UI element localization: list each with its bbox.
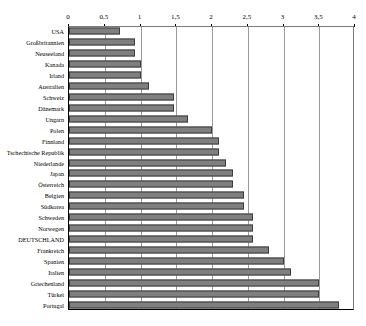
bar — [69, 61, 141, 68]
category-label: DEUTSCHLAND — [18, 235, 64, 242]
bar-row: DEUTSCHLAND — [0, 234, 366, 245]
bar — [69, 235, 253, 242]
bar-row: Niederlande — [0, 157, 366, 168]
bar — [69, 225, 253, 232]
bar — [69, 279, 319, 286]
category-label: Tschechische Republik — [7, 148, 64, 155]
bar-row: Dänemark — [0, 102, 366, 113]
bar — [69, 301, 339, 308]
bar — [69, 126, 212, 133]
bar — [69, 257, 284, 264]
bar-row: Japan — [0, 168, 366, 179]
x-axis-tick-label: 1 — [138, 13, 142, 21]
bar-row: USA — [0, 26, 366, 37]
bar-row: Südkorea — [0, 201, 366, 212]
category-label: Spanien — [44, 257, 64, 264]
category-label: Kanada — [45, 61, 64, 68]
bar — [69, 268, 291, 275]
category-label: Japan — [50, 170, 64, 177]
bar — [69, 203, 244, 210]
category-label: Österreich — [38, 181, 64, 188]
category-label: Portugal — [43, 301, 64, 308]
bar — [69, 246, 269, 253]
bar — [69, 192, 244, 199]
bar-row: Norwegen — [0, 223, 366, 234]
bar — [69, 50, 135, 57]
category-label: Finnland — [42, 137, 64, 144]
category-label: Schweiz — [43, 93, 64, 100]
bar-row: Australien — [0, 81, 366, 92]
bar-row: Neuseeland — [0, 48, 366, 59]
category-label: Türkei — [48, 290, 65, 297]
bar-row: Finnland — [0, 135, 366, 146]
x-axis-tick-label: 2 — [209, 13, 213, 21]
category-label: Polen — [50, 126, 64, 133]
bar-row: Schweiz — [0, 92, 366, 103]
x-axis-tick-label: 3,5 — [314, 13, 323, 21]
category-label: Niederlande — [34, 159, 64, 166]
category-label: Belgien — [45, 192, 64, 199]
category-label: Südkorea — [41, 203, 64, 210]
bar-row: Großbritannien — [0, 37, 366, 48]
bar — [69, 214, 253, 221]
bar-chart: 00,511,522,533,54 USAGroßbritannienNeuse… — [0, 0, 366, 326]
bar-row: Türkei — [0, 288, 366, 299]
bar — [69, 159, 226, 166]
bar-row: Portugal — [0, 299, 366, 310]
category-label: Australien — [38, 83, 64, 90]
category-label: Griechenland — [31, 279, 64, 286]
category-label: Italien — [48, 268, 64, 275]
bar-row: Spanien — [0, 255, 366, 266]
bar-row: Irland — [0, 70, 366, 81]
bar — [69, 137, 219, 144]
category-label: Ungarn — [45, 115, 64, 122]
x-axis-tick-label: 2,5 — [242, 13, 251, 21]
category-label: Norwegen — [38, 225, 64, 232]
bar-row: Österreich — [0, 179, 366, 190]
bar — [69, 115, 188, 122]
bar-row: Frankreich — [0, 244, 366, 255]
category-label: Großbritannien — [26, 39, 64, 46]
bar — [69, 290, 319, 297]
x-axis-tick-label: 0,5 — [99, 13, 108, 21]
bar — [69, 104, 174, 111]
bar — [69, 28, 120, 35]
x-axis-tick-label: 0 — [66, 13, 70, 21]
bar-row: Ungarn — [0, 113, 366, 124]
x-axis-tick-label: 3 — [281, 13, 285, 21]
bar — [69, 83, 149, 90]
category-label: Neuseeland — [35, 50, 64, 57]
bar — [69, 148, 219, 155]
bar — [69, 39, 135, 46]
bar-rows: USAGroßbritannienNeuseelandKanadaIrlandA… — [0, 26, 366, 310]
bar-row: Griechenland — [0, 277, 366, 288]
bar-row: Schweden — [0, 212, 366, 223]
bar-row: Kanada — [0, 59, 366, 70]
category-label: USA — [52, 28, 64, 35]
category-label: Schweden — [39, 214, 64, 221]
bar-row: Belgien — [0, 190, 366, 201]
category-label: Frankreich — [37, 246, 64, 253]
x-axis-tick-label: 1,5 — [171, 13, 180, 21]
bar — [69, 181, 233, 188]
category-label: Irland — [49, 72, 64, 79]
bar-row: Italien — [0, 266, 366, 277]
category-label: Dänemark — [38, 104, 64, 111]
bar-row: Tschechische Republik — [0, 146, 366, 157]
bar-row: Polen — [0, 124, 366, 135]
bar — [69, 170, 233, 177]
x-axis-tick-label: 4 — [352, 13, 356, 21]
bar — [69, 72, 141, 79]
bar — [69, 93, 174, 100]
